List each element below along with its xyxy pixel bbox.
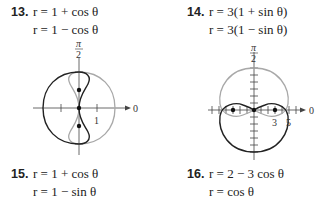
arrow-icon [300,108,306,113]
intersection-point [273,108,277,112]
tick-label-3: 3 [272,117,277,128]
intersection-point [252,108,256,112]
label-pi: π [251,42,257,53]
label-2: 2 [251,53,256,64]
tick-label-5: 5 [286,117,291,128]
polar-axis-label: 0 [309,105,314,116]
intersection-point [231,108,235,112]
graph-14: π 2 0 3 5 [0,0,315,206]
